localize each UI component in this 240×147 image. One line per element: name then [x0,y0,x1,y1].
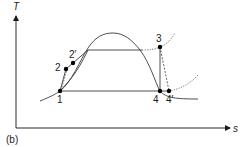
point-2-prime [71,61,75,65]
point-3 [158,45,162,49]
point-4-prime [167,89,171,93]
point-4 [158,89,162,93]
label-2-prime: 2′ [69,49,77,60]
t-axis-label: T [13,1,20,12]
label-2: 2 [55,62,61,73]
label-4: 4 [153,94,159,105]
point-2 [64,67,68,71]
label-3: 3 [156,33,162,44]
point-1 [58,89,62,93]
ts-diagram: T s (b) 1 2 2′ 3 4 4′ [0,0,240,147]
turbine-actual-line [160,47,169,91]
label-1: 1 [57,94,63,105]
panel-label: (b) [6,134,18,145]
s-axis-label: s [233,123,238,134]
label-4-prime: 4′ [166,94,174,105]
low-pressure-isobar [169,75,198,91]
